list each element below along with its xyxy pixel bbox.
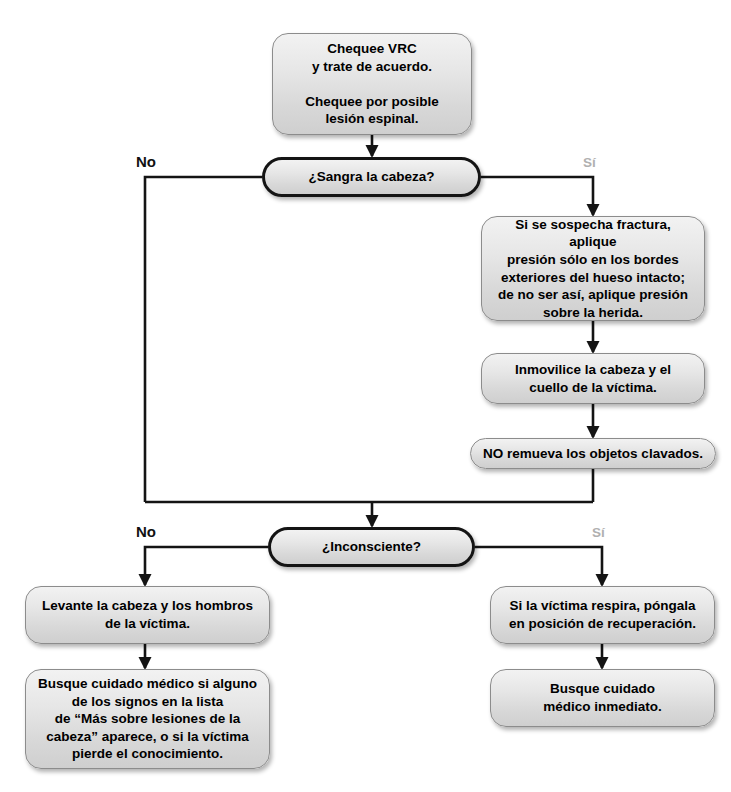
branch-label-unconscious-yes: Sí	[592, 526, 605, 540]
node-immobilize[interactable]: Inmovilice la cabeza y el cuello de la v…	[481, 353, 705, 404]
node-recovery-position[interactable]: Si la víctima respira, póngala en posici…	[490, 586, 715, 644]
node-do-not-remove-objects[interactable]: NO remueva los objetos clavados.	[470, 438, 716, 469]
connector-bleeding-no	[145, 177, 262, 502]
branch-label-bleeding-no: No	[136, 154, 156, 169]
branch-label-bleeding-yes: Sí	[583, 156, 596, 170]
connector-unconscious-yes	[475, 547, 602, 585]
connector-bleeding-yes	[481, 177, 593, 215]
node-start[interactable]: Chequee VRC y trate de acuerdo. Chequee …	[272, 33, 472, 135]
node-decision-bleeding[interactable]: ¿Sangra la cabeza?	[262, 157, 481, 197]
node-seek-medical-care-signs[interactable]: Busque cuidado médico si alguno de los s…	[25, 669, 270, 769]
node-apply-pressure[interactable]: Si se sospecha fractura, aplique presión…	[481, 216, 705, 321]
connector-unconscious-no	[145, 547, 268, 585]
flowchart-canvas: Chequee VRC y trate de acuerdo. Chequee …	[0, 0, 731, 792]
node-decision-unconscious[interactable]: ¿Inconsciente?	[268, 527, 475, 567]
node-seek-medical-care-immediate[interactable]: Busque cuidado médico inmediato.	[490, 669, 715, 727]
branch-label-unconscious-no: No	[136, 524, 156, 539]
node-raise-head-shoulders[interactable]: Levante la cabeza y los hombros de la ví…	[25, 586, 270, 644]
